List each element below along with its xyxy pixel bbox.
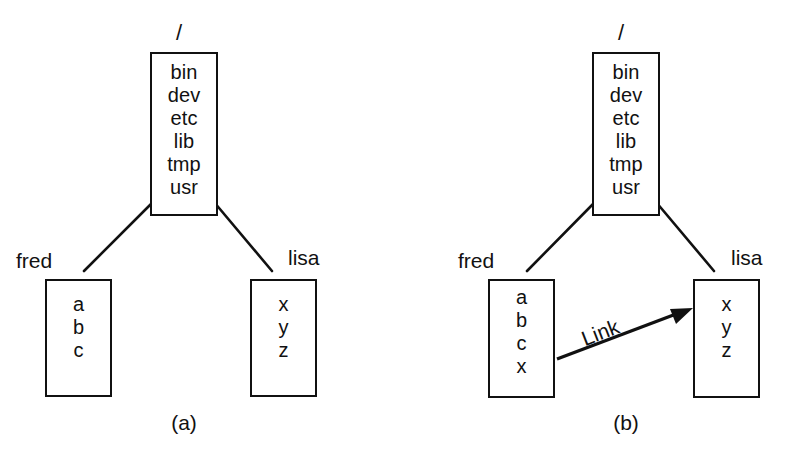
dir-entry: lib xyxy=(594,130,658,153)
fred-directory-box-a: a b c xyxy=(45,279,112,397)
dir-entry: z xyxy=(252,339,315,362)
root-label-b: / xyxy=(618,22,624,44)
dir-entry: a xyxy=(490,286,553,309)
link-label: Link xyxy=(578,316,621,349)
panel-caption-a: (a) xyxy=(150,412,218,433)
dir-entry: etc xyxy=(594,107,658,130)
dir-entry: c xyxy=(47,339,110,362)
dir-entry: dev xyxy=(152,84,216,107)
connector-lines xyxy=(0,0,796,456)
root-directory-box-a: bin dev etc lib tmp usr xyxy=(150,52,218,216)
edge-root-to-lisa-b xyxy=(656,202,714,271)
dir-entry: bin xyxy=(152,61,216,84)
panel-caption-b: (b) xyxy=(592,412,660,433)
dir-entry: etc xyxy=(152,107,216,130)
dir-entry: a xyxy=(47,293,110,316)
node-label-fred-b: fred xyxy=(458,250,494,271)
root-directory-box-b: bin dev etc lib tmp usr xyxy=(592,52,660,216)
dir-entry: x xyxy=(695,293,758,316)
dir-entry: usr xyxy=(152,176,216,199)
node-label-lisa-a: lisa xyxy=(288,247,320,268)
dir-entry: b xyxy=(490,309,553,332)
fred-directory-box-b: a b c x xyxy=(488,279,555,398)
dir-entry: c xyxy=(490,332,553,355)
edge-root-to-lisa-a xyxy=(214,202,272,271)
link-arrow xyxy=(557,308,693,359)
root-label-a: / xyxy=(176,22,182,44)
dir-entry: b xyxy=(47,316,110,339)
dir-entry: dev xyxy=(594,84,658,107)
dir-entry: lib xyxy=(152,130,216,153)
edge-root-to-fred-b xyxy=(527,202,595,271)
dir-entry: x xyxy=(252,293,315,316)
filesystem-link-figure: / bin dev etc lib tmp usr fred a b c lis… xyxy=(0,0,796,456)
dir-entry: z xyxy=(695,339,758,362)
lisa-directory-box-a: x y z xyxy=(250,279,317,397)
dir-entry: y xyxy=(695,316,758,339)
node-label-fred-a: fred xyxy=(16,250,52,271)
dir-entry: tmp xyxy=(594,153,658,176)
dir-entry: usr xyxy=(594,176,658,199)
lisa-directory-box-b: x y z xyxy=(693,279,760,398)
dir-entry: y xyxy=(252,316,315,339)
edge-root-to-fred-a xyxy=(84,202,153,271)
dir-entry: x xyxy=(490,355,553,378)
node-label-lisa-b: lisa xyxy=(731,247,763,268)
dir-entry: tmp xyxy=(152,153,216,176)
dir-entry: bin xyxy=(594,61,658,84)
